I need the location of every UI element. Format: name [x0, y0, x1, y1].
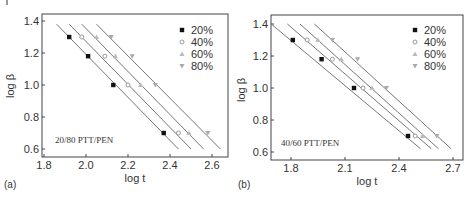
- y-tick-label: 1.0: [253, 82, 268, 94]
- y-tick-label: 1.2: [253, 50, 268, 62]
- data-marker: [176, 131, 180, 135]
- legend-label: 60%: [191, 48, 213, 60]
- data-marker: [103, 54, 107, 58]
- x-axis-label: log t: [125, 172, 146, 184]
- legend-label: 60%: [424, 48, 446, 60]
- data-marker: [111, 83, 115, 87]
- x-axis-label: log t: [357, 175, 378, 187]
- y-tick-label: 0.8: [24, 111, 39, 123]
- data-marker: [339, 57, 344, 62]
- legend-label: 80%: [424, 60, 446, 72]
- data-marker: [67, 35, 71, 39]
- data-marker: [361, 86, 365, 90]
- data-marker: [412, 51, 417, 56]
- fit-line: [287, 24, 431, 149]
- data-marker: [180, 40, 184, 44]
- data-marker: [179, 51, 184, 56]
- data-marker: [162, 131, 166, 135]
- chart-panel-b: 1.82.12.42.70.60.81.01.21.4log tlog β40/…: [235, 15, 463, 187]
- y-tick-label: 0.8: [253, 114, 268, 126]
- data-marker: [330, 57, 334, 61]
- y-tick-label: 0.6: [253, 146, 268, 158]
- data-marker: [406, 134, 410, 138]
- y-tick-label: 1.0: [24, 79, 39, 91]
- x-tick-label: 2.4: [162, 159, 177, 171]
- figure: 1.82.02.22.42.60.60.81.01.21.4log tlog β…: [0, 0, 472, 198]
- chart-panel-a: 1.82.02.22.42.60.60.81.01.21.4log tlog β…: [4, 14, 228, 184]
- x-tick-label: 2.1: [337, 162, 352, 174]
- y-tick-label: 1.4: [24, 15, 39, 27]
- data-marker: [113, 54, 118, 59]
- sample-annotation: 40/60 PTT/PEN: [281, 138, 340, 148]
- panel-label-a: (a): [4, 179, 16, 190]
- data-marker: [80, 35, 84, 39]
- data-marker: [352, 86, 356, 90]
- data-marker: [291, 38, 295, 42]
- y-tick-label: 0.6: [24, 143, 39, 155]
- fit-line: [69, 24, 191, 149]
- x-tick-label: 2.6: [204, 159, 219, 171]
- data-marker: [413, 134, 417, 138]
- legend-label: 40%: [191, 36, 213, 48]
- legend-label: 20%: [424, 24, 446, 36]
- fit-line: [300, 24, 439, 149]
- y-axis-label: log β: [4, 74, 16, 98]
- legend-label: 80%: [191, 60, 213, 72]
- data-marker: [180, 28, 184, 32]
- fit-line: [271, 24, 420, 149]
- data-marker: [86, 54, 90, 58]
- y-axis-label: log β: [235, 78, 247, 102]
- legend-label: 20%: [191, 24, 213, 36]
- data-marker: [179, 64, 184, 69]
- x-tick-label: 2.4: [391, 162, 406, 174]
- data-marker: [413, 40, 417, 44]
- fit-line: [57, 24, 179, 149]
- data-marker: [126, 83, 130, 87]
- data-marker: [305, 38, 309, 42]
- y-tick-label: 1.4: [253, 18, 268, 30]
- legend-label: 40%: [424, 36, 446, 48]
- x-tick-label: 2.2: [120, 159, 135, 171]
- data-marker: [412, 64, 417, 69]
- y-tick-label: 1.2: [24, 47, 39, 59]
- x-tick-label: 1.8: [283, 162, 298, 174]
- x-tick-label: 2.7: [445, 162, 460, 174]
- x-tick-label: 1.8: [36, 159, 51, 171]
- data-marker: [319, 57, 323, 61]
- data-marker: [413, 28, 417, 32]
- x-tick-label: 2.0: [78, 159, 93, 171]
- panel-label-b: (b): [238, 179, 250, 190]
- sample-annotation: 20/80 PTT/PEN: [55, 135, 114, 145]
